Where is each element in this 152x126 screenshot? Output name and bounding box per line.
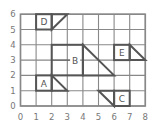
y-tick-label: 2 [10,70,15,80]
shape-label-b: B [72,56,78,66]
y-tick-label: 5 [10,25,15,35]
shape-label-a: A [41,79,48,89]
x-tick-label: 3 [65,112,70,122]
shape-e-triangle [130,45,146,60]
y-tick-label: 4 [10,40,15,50]
x-tick-label: 8 [143,112,148,122]
y-tick-label: 1 [10,86,15,96]
shape-label-c: C [119,94,125,104]
shape-a-triangle [52,75,68,90]
x-tick-label: 6 [111,112,116,122]
x-tick-label: 2 [49,112,54,122]
x-tick-label: 5 [96,112,101,122]
y-tick-label: 3 [10,55,15,65]
x-tick-label: 0 [18,112,23,122]
shape-d-triangle [52,14,68,29]
grid-diagram: 0123456780123456ABCDE [0,0,152,126]
x-tick-label: 1 [33,112,38,122]
x-tick-label: 4 [80,112,85,122]
shape-label-d: D [40,17,47,27]
shape-c-triangle [99,91,115,106]
x-tick-label: 7 [127,112,132,122]
y-tick-label: 0 [10,101,15,111]
y-tick-label: 6 [10,9,15,19]
shape-label-e: E [119,48,125,58]
